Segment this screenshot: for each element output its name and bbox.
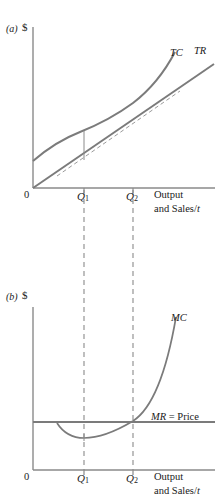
panel-a-x-axis-label-line1: Output [154, 190, 183, 201]
panel-a-tick-label-q2: Q2 [126, 191, 138, 203]
panel-b-x-axis-label-line2-text: and Sales/ [154, 485, 197, 496]
panel-a-y-axis-label: $ [22, 22, 28, 33]
panel-b-x-axis-label-line2: and Sales/t [154, 486, 200, 497]
panel-a-tick-q1-letter: Q [77, 190, 85, 202]
panel-b-origin-label: 0 [24, 472, 29, 483]
panel-a-x-axis-label-line2-text: and Sales/ [154, 203, 197, 214]
panel-b-label-mr-price: MR = Price [151, 412, 199, 423]
panel-a-tick-label-q1: Q1 [77, 191, 89, 203]
panel-a-tick-q2-letter: Q [126, 190, 134, 202]
panel-b-label-price: Price [177, 411, 199, 422]
panel-a-origin-label: 0 [24, 190, 29, 201]
panel-b-x-axis-label-line1: Output [154, 472, 183, 483]
panel-b-tick-q2-letter: Q [126, 472, 134, 484]
panel-b-tick-q2-subscript: 2 [134, 476, 138, 485]
panel-a-label-tr: TR [194, 46, 206, 57]
panel-b-axes [33, 307, 215, 475]
economics-figure: (a) $ TC TR 0 Q1 Q2 Output and Sales/t (… [0, 0, 221, 502]
panel-a-curve-tr [33, 64, 214, 188]
panel-a-tick-q1-subscript: 1 [85, 194, 89, 203]
panel-a-label-tc: TC [170, 48, 183, 59]
panel-b-tick-label-q1: Q1 [77, 473, 89, 485]
panel-b-y-axis-label: $ [22, 290, 28, 301]
panel-a-tick-q2-subscript: 2 [134, 194, 138, 203]
panel-b-tick-q1-letter: Q [77, 472, 85, 484]
panel-b-label-mr: MR [151, 411, 166, 422]
panel-b-x-axis-label-rate: t [197, 485, 200, 496]
panel-a-x-axis-label-rate: t [197, 203, 200, 214]
panel-b-tag: (b) [6, 292, 18, 302]
figure-canvas [0, 0, 221, 502]
panel-b-tick-q1-subscript: 1 [85, 476, 89, 485]
panel-b-label-equals: = [166, 411, 177, 422]
panel-a-x-axis-label-line2: and Sales/t [154, 204, 200, 215]
panel-a-tag: (a) [6, 24, 18, 34]
panel-b-tick-label-q2: Q2 [126, 473, 138, 485]
panel-b-label-mc: MC [171, 313, 187, 324]
